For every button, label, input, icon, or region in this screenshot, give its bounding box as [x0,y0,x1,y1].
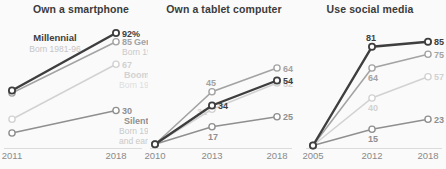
value-label-millennial-2018: 85 [434,37,444,47]
value-label-millennial-2018: 54 [283,76,293,86]
smartphone-plot: 67BoomerBorn 1946-6485 Gen XBorn 1965-80… [0,0,148,169]
line-boomer [12,64,116,119]
x-tick-2013: 2013 [201,150,222,161]
value-label-millennial-2013: 34 [218,101,228,111]
point-boomer-2011 [9,116,15,122]
panel-svg: 3152456417253454 [148,0,296,169]
value-label-gen-x-2018: 64 [283,64,293,74]
tablet-panel: Own a tablet computer 3152456417253454 2… [148,0,296,169]
x-tick-2010: 2010 [144,150,165,161]
point-silent-2018 [274,114,280,120]
point-gen-x-2012 [369,65,375,71]
legend-gen-x-name: Gen X [134,37,148,47]
value-label-boomer-2012: 40 [368,103,378,113]
point-gen-x-2018 [425,51,431,57]
point-millennial-2010 [152,141,158,147]
value-label-boomer-2018: 57 [434,72,444,82]
legend-gen-x-born: Born 1965-80 [122,47,148,57]
point-silent-2013 [209,124,215,130]
legend-silent-name: Silent [124,116,148,126]
x-tick-2011: 2011 [2,150,22,161]
social-media-plot: 4057647515238185 [296,0,446,169]
smartphone-panel: Own a smartphone 67BoomerBorn 1946-6485 … [0,0,148,169]
legend-boomer-name: Boomer [124,70,148,80]
point-boomer-2012 [369,95,375,101]
point-boomer-2018 [425,74,431,80]
x-tick-2005: 2005 [302,150,323,161]
legend-millennial-born: Born 1981-96 [29,44,81,54]
point-silent-2012 [369,126,375,132]
point-millennial-2018 [425,39,431,45]
value-label-gen-x-2018: 75 [434,50,444,60]
point-silent-2018 [425,116,431,122]
social-media-panel: Use social media 4057647515238185 200520… [296,0,446,169]
value-label-silent-2018: 25 [283,112,293,122]
value-label-gen-x-2018: 85 [122,37,132,47]
line-silent [12,111,116,134]
x-tick-2012: 2012 [361,150,382,161]
point-gen-x-2013 [209,89,215,95]
value-label-silent-2012: 15 [368,134,378,144]
point-silent-2011 [9,130,15,136]
point-millennial-2005 [310,142,316,148]
point-gen-x-2018 [113,39,119,45]
x-tick-2018: 2018 [105,150,126,161]
point-boomer-2018 [113,61,119,67]
x-tick-2018: 2018 [266,150,287,161]
point-millennial-2013 [209,102,215,108]
generations-technology-chart: Own a smartphone 67BoomerBorn 1946-6485 … [0,0,446,169]
value-label-millennial-2012: 81 [366,33,376,43]
point-millennial-2012 [369,44,375,50]
legend-silent-born: Born 1945 [119,126,148,136]
value-label-millennial-2018: 92% [122,29,140,39]
legend-boomer-born: Born 1946-64 [119,80,148,90]
point-silent-2018 [113,107,119,113]
point-millennial-2018 [113,30,119,36]
panel-svg: 4057647515238185 [296,0,446,169]
point-gen-x-2018 [274,65,280,71]
tablet-plot: 3152456417253454 [148,0,296,169]
x-tick-2018: 2018 [417,150,438,161]
legend-millennial-name: Millennial [33,32,76,43]
value-label-boomer-2018: 67 [122,60,132,70]
value-label-gen-x-2012: 64 [368,73,378,83]
legend-silent-born: and earlier [119,136,148,146]
value-label-silent-2013: 17 [208,132,218,142]
point-millennial-2018 [274,77,280,83]
point-millennial-2011 [9,87,15,93]
panel-svg: 67BoomerBorn 1946-6485 Gen XBorn 1965-80… [0,0,148,169]
value-label-silent-2018: 23 [434,115,444,125]
value-label-gen-x-2013: 45 [206,78,216,88]
value-label-silent-2018: 30 [122,106,132,116]
